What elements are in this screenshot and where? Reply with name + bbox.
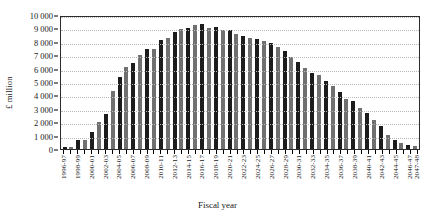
- bar: [179, 29, 183, 149]
- x-tick-label: 2006-07: [129, 155, 137, 179]
- y-tick-label: 7 000: [34, 51, 53, 61]
- x-tick-label: 2022-23: [240, 155, 248, 179]
- gridline: [61, 57, 419, 58]
- x-tick-mark: [133, 150, 134, 154]
- x-tick-mark: [354, 150, 355, 154]
- x-tick-mark: [340, 150, 341, 154]
- bar: [214, 27, 218, 149]
- x-tick-label: 2024-25: [254, 155, 262, 179]
- bar: [296, 62, 300, 149]
- x-tick-mark: [126, 150, 127, 154]
- bar: [221, 30, 225, 149]
- y-tick-mark: [54, 69, 58, 70]
- x-tick-label: 2016-17: [198, 155, 206, 179]
- x-tick-mark: [299, 150, 300, 154]
- x-tick-mark: [396, 150, 397, 154]
- gridline: [61, 138, 419, 139]
- x-tick-mark: [271, 150, 272, 154]
- x-tick-mark: [389, 150, 390, 154]
- bar: [76, 140, 80, 149]
- chart-figure: £ million 01 0002 0003 0004 0005 0006 00…: [0, 0, 435, 223]
- x-tick-mark: [98, 150, 99, 154]
- y-tick-mark: [54, 29, 58, 30]
- x-tick-mark: [257, 150, 258, 154]
- bar: [255, 39, 259, 149]
- x-tick-mark: [112, 150, 113, 154]
- x-tick-label: 2047-48: [413, 155, 421, 179]
- y-tick-mark: [54, 109, 58, 110]
- x-tick-mark: [174, 150, 175, 154]
- x-tick-mark: [230, 150, 231, 154]
- x-tick-mark: [410, 150, 411, 154]
- y-axis-ticks: 01 0002 0003 0004 0005 0006 0007 0008 00…: [16, 16, 58, 150]
- x-tick-mark: [147, 150, 148, 154]
- plot-area: [60, 16, 420, 150]
- gridline: [61, 84, 419, 85]
- y-tick-label: 6 000: [34, 65, 53, 75]
- y-tick-label: 0: [49, 145, 53, 155]
- bar: [159, 40, 163, 149]
- x-tick-mark: [209, 150, 210, 154]
- bar: [365, 113, 369, 149]
- x-tick-mark: [153, 150, 154, 154]
- x-tick-mark: [167, 150, 168, 154]
- gridline: [61, 124, 419, 125]
- x-tick-mark: [306, 150, 307, 154]
- x-tick-label: 2008-09: [143, 155, 151, 179]
- bar: [351, 101, 355, 149]
- bar: [393, 140, 397, 149]
- bar: [234, 34, 238, 149]
- x-tick-label: 2014-15: [185, 155, 193, 179]
- y-tick-mark: [54, 83, 58, 84]
- x-axis-title: Fiscal year: [0, 200, 435, 210]
- x-tick-mark: [105, 150, 106, 154]
- x-tick-mark: [250, 150, 251, 154]
- gridline: [61, 44, 419, 45]
- x-tick-mark: [70, 150, 71, 154]
- x-tick-mark: [160, 150, 161, 154]
- x-tick-mark: [181, 150, 182, 154]
- x-tick-mark: [417, 150, 418, 154]
- bar: [166, 38, 170, 149]
- x-tick-mark: [333, 150, 334, 154]
- bar: [63, 147, 67, 149]
- x-tick-mark: [243, 150, 244, 154]
- x-tick-mark: [91, 150, 92, 154]
- bar: [331, 86, 335, 149]
- bar: [186, 28, 190, 149]
- x-tick-label: 2012-13: [171, 155, 179, 179]
- x-tick-label: 2026-27: [268, 155, 276, 179]
- bar: [228, 30, 232, 149]
- bar: [131, 63, 135, 149]
- bar: [283, 51, 287, 149]
- bar: [145, 49, 149, 150]
- y-tick-mark: [54, 150, 58, 151]
- bar: [173, 32, 177, 149]
- x-tick-mark: [223, 150, 224, 154]
- x-axis-tick-labels: 1996-971998-992000-012002-032004-052006-…: [60, 155, 420, 195]
- y-tick-label: 9 000: [34, 24, 53, 34]
- x-tick-mark: [84, 150, 85, 154]
- bar: [97, 122, 101, 149]
- y-tick-label: 3 000: [34, 105, 53, 115]
- x-tick-mark: [216, 150, 217, 154]
- x-tick-label: 1998-99: [74, 155, 82, 179]
- bar: [241, 36, 245, 149]
- x-tick-mark: [313, 150, 314, 154]
- x-tick-label: 2044-45: [392, 155, 400, 179]
- bar: [83, 140, 87, 149]
- gridline: [61, 30, 419, 31]
- x-tick-mark: [202, 150, 203, 154]
- y-tick-label: 2 000: [34, 118, 53, 128]
- bar: [399, 143, 403, 149]
- x-tick-mark: [285, 150, 286, 154]
- x-tick-label: 2018-19: [212, 155, 220, 179]
- x-tick-mark: [375, 150, 376, 154]
- x-tick-label: 2002-03: [102, 155, 110, 179]
- y-tick-label: 8 000: [34, 38, 53, 48]
- bar: [269, 43, 273, 149]
- bar: [338, 92, 342, 149]
- y-tick-mark: [54, 42, 58, 43]
- bar: [69, 147, 73, 149]
- bar: [90, 132, 94, 149]
